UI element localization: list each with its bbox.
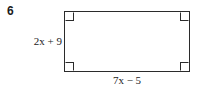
figure-page: 6 2x + 9 7x − 5 bbox=[0, 0, 197, 94]
right-angle-mark-top-left-icon bbox=[65, 12, 74, 21]
rectangle-shape bbox=[64, 11, 190, 72]
right-angle-mark-top-right-icon bbox=[180, 12, 189, 21]
rectangle-width-label: 7x − 5 bbox=[64, 74, 190, 87]
problem-number: 6 bbox=[7, 4, 14, 18]
right-angle-mark-bottom-right-icon bbox=[180, 62, 189, 71]
rectangle-height-label: 2x + 9 bbox=[26, 35, 62, 48]
right-angle-mark-bottom-left-icon bbox=[65, 62, 74, 71]
